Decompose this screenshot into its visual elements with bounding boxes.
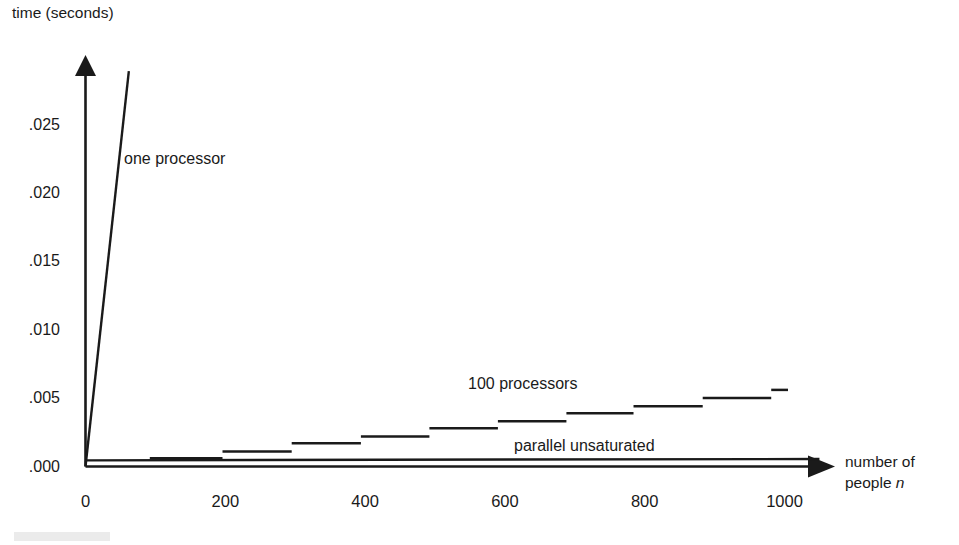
y-tick-label: .020 (2, 184, 60, 202)
y-tick-label: .005 (2, 389, 60, 407)
series-100-processors (150, 390, 788, 458)
x-tick-label: 0 (51, 492, 121, 511)
x-tick-label: 800 (610, 492, 680, 511)
y-axis-title: time (seconds) (12, 4, 114, 22)
y-tick-label: .000 (2, 458, 60, 476)
x-axis-title-variable: n (896, 474, 905, 491)
chart-plot-area (0, 0, 959, 545)
chart-figure: time (seconds) .000.005.010.015.020.025 … (0, 0, 959, 545)
y-tick-label: .010 (2, 321, 60, 339)
x-tick-label: 1000 (750, 492, 820, 511)
x-axis-title-line1: number of (845, 453, 915, 470)
x-tick-label: 200 (190, 492, 260, 511)
annotation-one-processor: one processor (124, 150, 225, 168)
axes-group (75, 55, 835, 478)
y-tick-label: .025 (2, 116, 60, 134)
x-tick-label: 400 (330, 492, 400, 511)
y-tick-label: .015 (2, 252, 60, 270)
x-tick-label: 600 (470, 492, 540, 511)
x-axis-title-line2-prefix: people (845, 474, 896, 491)
series-group (86, 71, 820, 466)
series-one-processor (86, 71, 129, 466)
x-axis-title: number of people n (845, 452, 955, 494)
annotation-hundred-processors: 100 processors (468, 375, 577, 393)
series-parallel-unsaturated (86, 459, 820, 460)
page-caption-fragment (14, 532, 110, 541)
annotation-parallel-unsaturated: parallel unsaturated (514, 437, 655, 455)
